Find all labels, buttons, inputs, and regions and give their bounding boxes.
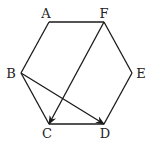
arrow-BD: [21, 73, 104, 124]
vertex-label-D: D: [100, 126, 110, 141]
vector-arrows: [21, 22, 104, 124]
arrow-FC: [49, 22, 104, 124]
edge-FE: [104, 22, 132, 73]
vertex-label-A: A: [40, 6, 51, 21]
edge-BA: [21, 22, 49, 73]
vertex-label-F: F: [99, 6, 108, 21]
vertex-label-E: E: [136, 66, 146, 81]
vertex-label-B: B: [6, 66, 16, 81]
vertex-label-C: C: [42, 126, 52, 141]
hexagon-diagram: AFEDCB: [0, 0, 152, 146]
edge-ED: [104, 73, 132, 124]
edge-CB: [21, 73, 49, 124]
